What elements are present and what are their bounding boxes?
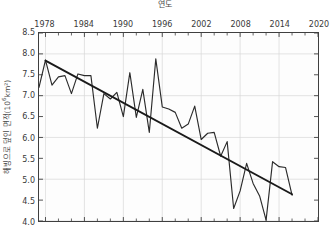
data-line — [39, 59, 292, 220]
y-axis-title-base: 해빙으로 덮인 면적(10 — [3, 101, 12, 174]
y-tick-label: 6.0 — [12, 133, 35, 142]
y-tick-label: 7.5 — [12, 70, 35, 79]
x-tick-label: 2002 — [191, 20, 211, 29]
y-tick-label: 4.0 — [12, 218, 35, 227]
x-tick-label: 2020 — [309, 20, 329, 29]
y-axis-title-text: 해빙으로 덮인 면적(106km²) — [1, 80, 12, 174]
y-axis-title-tail: km²) — [3, 80, 12, 98]
x-tick-label: 1990 — [113, 20, 133, 29]
data-series-layer — [39, 33, 318, 221]
sea-ice-extent-chart: 연도 해빙으로 덮인 면적(106km²) 197819841990199620… — [0, 0, 330, 245]
y-tick-label: 8.0 — [12, 49, 35, 58]
y-tick-label: 7.0 — [12, 91, 35, 100]
x-tick-label: 1984 — [74, 20, 94, 29]
plot-area — [38, 32, 319, 222]
y-axis-title: 해빙으로 덮인 면적(106km²) — [0, 32, 13, 222]
y-tick-label: 4.5 — [12, 196, 35, 205]
x-axis-title: 연도 — [0, 0, 330, 10]
x-tick-label: 2008 — [230, 20, 250, 29]
y-axis-title-exponent: 6 — [1, 97, 7, 101]
y-tick-label: 6.5 — [12, 112, 35, 121]
x-tick-label: 1996 — [152, 20, 172, 29]
y-tick-label: 5.0 — [12, 175, 35, 184]
y-tick-label: 5.5 — [12, 154, 35, 163]
x-tick-label: 1978 — [34, 20, 54, 29]
y-tick-label: 8.5 — [12, 28, 35, 37]
trend-line — [45, 61, 292, 195]
x-tick-label: 2014 — [270, 20, 290, 29]
